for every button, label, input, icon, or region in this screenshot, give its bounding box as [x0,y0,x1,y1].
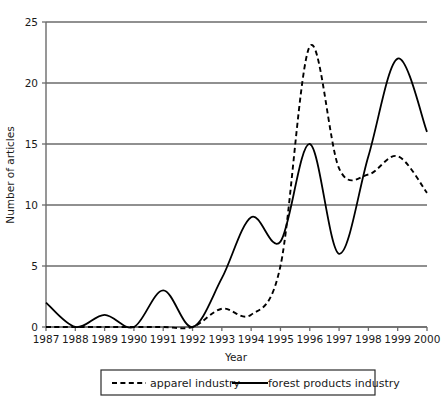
x-axis-ticks: 1987198819891990199119921993199419951996… [33,327,441,345]
x-tick-label: 1994 [238,333,265,345]
y-axis-ticks: 0510152025 [25,16,46,333]
x-tick-label: 1996 [296,333,323,345]
y-tick-label: 15 [25,138,38,150]
legend-label-forest: forest products industry [268,377,400,390]
data-series-group [46,45,427,329]
y-axis-title: Number of articles [4,126,16,223]
x-axis-title: Year [224,351,248,363]
x-tick-label: 1992 [179,333,206,345]
x-tick-label: 1991 [150,333,177,345]
y-tick-label: 25 [25,16,38,28]
x-tick-label: 1999 [384,333,411,345]
x-tick-label: 2000 [414,333,441,345]
y-tick-label: 5 [31,260,38,272]
x-tick-label: 1993 [208,333,235,345]
x-tick-label: 1998 [355,333,382,345]
x-tick-label: 1990 [121,333,148,345]
x-tick-label: 1987 [33,333,60,345]
y-tick-label: 10 [25,199,38,211]
x-tick-label: 1995 [267,333,294,345]
series-line-apparel-industry [46,45,427,329]
legend-label-apparel: apparel industry [150,377,241,390]
series-line-forest-products-industry [46,58,427,327]
y-tick-label: 20 [25,77,38,89]
y-tick-label: 0 [31,321,38,333]
x-tick-label: 1988 [62,333,89,345]
x-tick-label: 1997 [326,333,353,345]
chart-container: 0510152025 19871988198919901991199219931… [0,0,448,402]
line-chart: 0510152025 19871988198919901991199219931… [0,0,448,402]
x-tick-label: 1989 [91,333,118,345]
gridlines [46,22,427,327]
legend: apparel industry forest products industr… [101,370,400,395]
